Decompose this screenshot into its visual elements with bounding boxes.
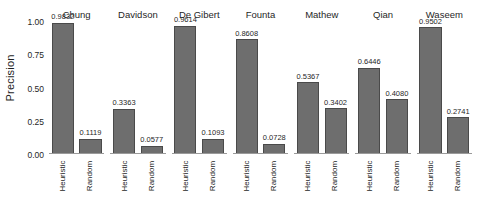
bar-value-label: 0.3402 — [324, 99, 347, 107]
bar-value-label: 0.9614 — [174, 16, 197, 24]
x-label-slot: Random — [141, 156, 163, 201]
bar-slot: 0.3363 — [113, 22, 135, 154]
x-axis-tick-label: Random — [148, 160, 156, 190]
bar-value-label: 0.1093 — [202, 129, 225, 137]
x-label-slot: Heuristic — [358, 156, 380, 201]
facet-panel-title: Qian — [352, 8, 413, 22]
x-axis-tick-label: Heuristic — [181, 160, 189, 191]
bar[interactable] — [386, 99, 408, 153]
facet-panel: Waseem0.95020.2741HeuristicRandom — [414, 8, 475, 201]
bar[interactable] — [447, 117, 469, 153]
y-axis-tick-0: 1.00 — [27, 18, 44, 27]
precision-bar-chart: Precision 1.000.750.500.250.00 Chung0.98… — [0, 0, 477, 201]
facet-plot-area: 0.96140.1093 — [172, 22, 227, 154]
facet-plot-area: 0.86080.0728 — [233, 22, 288, 154]
bar-slot: 0.1093 — [202, 22, 224, 154]
bar-slot: 0.9614 — [174, 22, 196, 154]
x-axis-tick-label: Heuristic — [243, 160, 251, 191]
bar-value-label: 0.0728 — [263, 134, 286, 142]
x-axis-labels: HeuristicRandom — [294, 156, 349, 201]
y-axis-title: Precision — [2, 0, 18, 155]
bar[interactable] — [325, 108, 347, 153]
facet-panel: Qian0.64460.4080HeuristicRandom — [352, 8, 413, 201]
bar[interactable] — [263, 144, 285, 154]
x-label-slot: Heuristic — [174, 156, 196, 201]
x-axis-tick-label: Random — [332, 160, 340, 190]
x-label-slot: Random — [79, 156, 101, 201]
facet-panels: Chung0.98320.1119HeuristicRandomDavidson… — [46, 8, 475, 201]
bar[interactable] — [174, 26, 196, 154]
bar-slot: 0.6446 — [358, 22, 380, 154]
bar[interactable] — [52, 23, 74, 154]
bar-group: 0.96140.1093 — [172, 22, 227, 154]
x-axis-tick-label: Random — [270, 160, 278, 190]
y-axis-tick-4: 0.00 — [27, 151, 44, 160]
y-axis-tick-1: 0.75 — [27, 51, 44, 60]
facet-panel: De Gibert0.96140.1093HeuristicRandom — [169, 8, 230, 201]
bar-slot: 0.3402 — [325, 22, 347, 154]
bar-group: 0.98320.1119 — [49, 22, 104, 154]
bar[interactable] — [141, 146, 163, 154]
x-label-slot: Random — [386, 156, 408, 201]
y-axis-ticks: 1.000.750.500.250.00 — [18, 0, 44, 155]
x-axis-tick-label: Heuristic — [427, 160, 435, 191]
bar-slot: 0.2741 — [447, 22, 469, 154]
bar-slot: 0.0577 — [141, 22, 163, 154]
bar[interactable] — [419, 27, 441, 153]
bar-value-label: 0.8608 — [235, 30, 258, 38]
y-axis-tick-3: 0.25 — [27, 118, 44, 127]
bar-value-label: 0.1119 — [80, 129, 102, 137]
x-axis-labels: HeuristicRandom — [355, 156, 410, 201]
x-axis-tick-label: Random — [393, 160, 401, 190]
bar[interactable] — [358, 68, 380, 154]
facet-panel: Founta0.86080.0728HeuristicRandom — [230, 8, 291, 201]
bar-value-label: 0.9832 — [51, 13, 74, 21]
bar-value-label: 0.9502 — [419, 18, 442, 26]
x-axis-labels: HeuristicRandom — [417, 156, 472, 201]
bar[interactable] — [79, 139, 101, 154]
bar-slot: 0.9832 — [52, 22, 74, 154]
facet-plot-area: 0.64460.4080 — [355, 22, 410, 154]
facet-plot-area: 0.33630.0577 — [110, 22, 165, 154]
x-axis-tick-label: Random — [209, 160, 217, 190]
bar[interactable] — [236, 39, 258, 153]
bar[interactable] — [202, 139, 224, 154]
x-label-slot: Random — [325, 156, 347, 201]
x-axis-tick-label: Heuristic — [59, 160, 67, 191]
bar-slot: 0.0728 — [263, 22, 285, 154]
bar[interactable] — [113, 109, 135, 154]
y-axis-title-label: Precision — [4, 54, 16, 101]
x-label-slot: Random — [263, 156, 285, 201]
x-axis-labels: HeuristicRandom — [172, 156, 227, 201]
facet-panel-title: Founta — [230, 8, 291, 22]
bar-value-label: 0.4080 — [385, 90, 408, 98]
x-axis-tick-label: Random — [86, 160, 94, 190]
x-label-slot: Heuristic — [113, 156, 135, 201]
facet-plot-area: 0.95020.2741 — [417, 22, 472, 154]
x-label-slot: Heuristic — [297, 156, 319, 201]
bar-group: 0.53670.3402 — [294, 22, 349, 154]
bar-value-label: 0.0577 — [140, 136, 163, 144]
facet-panel-title: Davidson — [107, 8, 168, 22]
bar-group: 0.64460.4080 — [355, 22, 410, 154]
x-label-slot: Heuristic — [52, 156, 74, 201]
bar-value-label: 0.6446 — [358, 58, 381, 66]
bar-slot: 0.8608 — [236, 22, 258, 154]
bar-group: 0.95020.2741 — [417, 22, 472, 154]
y-axis-tick-2: 0.50 — [27, 84, 44, 93]
x-axis-tick-label: Random — [454, 160, 462, 190]
facet-panel: Davidson0.33630.0577HeuristicRandom — [107, 8, 168, 201]
x-axis-tick-label: Heuristic — [304, 160, 312, 191]
x-label-slot: Heuristic — [236, 156, 258, 201]
facet-panel: Chung0.98320.1119HeuristicRandom — [46, 8, 107, 201]
bar-slot: 0.1119 — [79, 22, 101, 154]
x-axis-labels: HeuristicRandom — [49, 156, 104, 201]
bar-slot: 0.5367 — [297, 22, 319, 154]
x-label-slot: Random — [202, 156, 224, 201]
x-axis-tick-label: Heuristic — [365, 160, 373, 191]
bar-value-label: 0.3363 — [113, 99, 136, 107]
x-axis-tick-label: Heuristic — [120, 160, 128, 191]
bar[interactable] — [297, 82, 319, 153]
facet-plot-area: 0.98320.1119 — [49, 22, 104, 154]
bar-value-label: 0.2741 — [447, 108, 470, 116]
